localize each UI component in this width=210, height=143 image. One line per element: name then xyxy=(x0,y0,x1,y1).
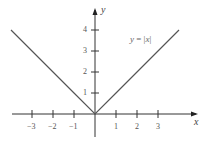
abs-bar-right: | xyxy=(149,34,151,44)
x-tick-label: −3 xyxy=(27,123,36,131)
function-annotation: y = |x| xyxy=(130,34,151,44)
x-tick-label: 3 xyxy=(156,123,160,131)
x-axis-label: x xyxy=(194,118,198,126)
x-tick-label: −1 xyxy=(69,123,78,131)
x-tick-label: 2 xyxy=(135,123,139,131)
y-tick-label: 2 xyxy=(83,68,87,76)
x-tick-label: −2 xyxy=(48,123,57,131)
function-lhs: y xyxy=(130,34,134,44)
y-axis-label: y xyxy=(101,6,105,14)
y-tick-label: 4 xyxy=(83,26,87,34)
function-equals: = xyxy=(136,34,141,44)
y-tick-label: 1 xyxy=(83,89,87,97)
y-axis-arrow-icon xyxy=(93,8,98,15)
x-tick-label: 1 xyxy=(114,123,118,131)
y-tick-label: 3 xyxy=(83,47,87,55)
axes xyxy=(12,8,198,137)
